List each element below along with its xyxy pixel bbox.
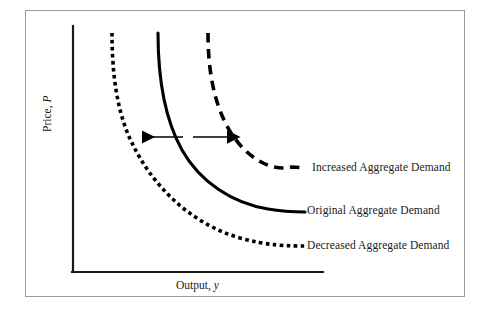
curve-decreased-aggregate-demand: [112, 33, 305, 246]
curve-increased-aggregate-demand: [208, 33, 305, 168]
x-axis-label: Output, y: [176, 279, 219, 291]
curve-original-aggregate-demand: [158, 33, 305, 212]
legend-label-original-aggregate-demand: Original Aggregate Demand: [307, 204, 440, 216]
legend-label-decreased-aggregate-demand: Decreased Aggregate Demand: [307, 239, 449, 251]
y-axis-label: Price, P: [41, 62, 53, 132]
axis-group: [72, 26, 323, 272]
x-axis-label-variable: y: [214, 279, 219, 291]
figure-root: Increased Aggregate Demand Original Aggr…: [0, 0, 490, 314]
plot-canvas: [0, 0, 490, 314]
x-axis-label-text: Output,: [176, 279, 214, 291]
y-axis-label-text: Price,: [41, 103, 53, 132]
y-axis-label-variable: P: [41, 96, 53, 103]
legend-label-increased-aggregate-demand: Increased Aggregate Demand: [312, 161, 451, 173]
